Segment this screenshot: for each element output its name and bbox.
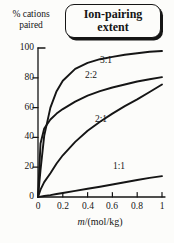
- y-tick-label-60: 60: [8, 102, 34, 113]
- x-tick-label-0.6: 0.6: [99, 201, 125, 212]
- x-tick-label-0.2: 0.2: [50, 201, 76, 212]
- curve-label-1-1: 1:1: [105, 161, 133, 172]
- curve-label-3-1: 3:1: [92, 55, 120, 66]
- x-axis-title-units: /(mol/kg): [85, 216, 123, 227]
- x-tick-label-1: 1: [149, 201, 174, 212]
- x-tick-label-0.8: 0.8: [124, 201, 150, 212]
- y-tick-label-20: 20: [8, 161, 34, 172]
- curve-1-1: [38, 176, 162, 197]
- curve-2-1: [38, 85, 162, 198]
- x-tick-label-0.4: 0.4: [75, 201, 101, 212]
- y-tick-label-40: 40: [8, 131, 34, 142]
- x-axis-title-symbol: m: [77, 216, 84, 227]
- curve-label-2-1: 2:1: [87, 114, 115, 125]
- y-tick-label-100: 100: [8, 42, 34, 53]
- x-tick-label-0: 0: [25, 201, 51, 212]
- ion-pairing-figure: Ion-pairing extent % cations paired 100 …: [0, 0, 174, 243]
- x-axis-title: m/(mol/kg): [48, 216, 152, 227]
- y-tick-label-80: 80: [8, 72, 34, 83]
- curve-label-2-2: 2:2: [77, 70, 105, 81]
